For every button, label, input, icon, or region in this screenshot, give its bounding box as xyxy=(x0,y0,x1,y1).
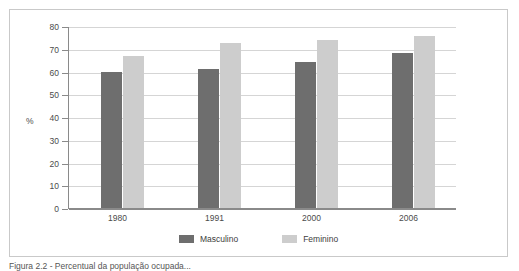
bar-group: 1980 xyxy=(69,27,166,208)
chart-figure: % 80706050403020100 1980199120002006 Mas… xyxy=(9,9,508,257)
bar-masculino-2006 xyxy=(392,53,413,208)
y-tick-label-0: 0 xyxy=(54,204,59,214)
legend-item-feminino: Feminino xyxy=(282,234,338,244)
y-tick-60 xyxy=(62,73,68,74)
y-tick-50 xyxy=(62,95,68,96)
y-tick-label-50: 50 xyxy=(50,90,59,100)
gridline-0 xyxy=(69,209,456,210)
chart-legend: MasculinoFeminino xyxy=(10,234,507,244)
legend-label-masculino: Masculino xyxy=(200,234,238,244)
y-tick-0 xyxy=(62,209,68,210)
y-tick-label-70: 70 xyxy=(50,45,59,55)
y-tick-label-80: 80 xyxy=(50,22,59,32)
bar-feminino-2000 xyxy=(317,40,338,208)
bar-masculino-2000 xyxy=(295,62,316,208)
x-tick-label-1980: 1980 xyxy=(69,213,166,223)
y-tick-label-30: 30 xyxy=(50,136,59,146)
figure-caption: Figura 2.2 - Percentual da população ocu… xyxy=(9,261,191,271)
y-tick-70 xyxy=(62,50,68,51)
y-tick-40 xyxy=(62,118,68,119)
y-tick-80 xyxy=(62,27,68,28)
bar-group: 2006 xyxy=(360,27,457,208)
bar-group: 2000 xyxy=(263,27,360,208)
bar-masculino-1980 xyxy=(101,72,122,209)
bar-masculino-1991 xyxy=(198,69,219,208)
legend-label-feminino: Feminino xyxy=(303,234,338,244)
y-tick-label-20: 20 xyxy=(50,159,59,169)
x-tick-label-2006: 2006 xyxy=(360,213,457,223)
y-tick-10 xyxy=(62,186,68,187)
y-axis-title: % xyxy=(26,116,34,126)
y-tick-label-60: 60 xyxy=(50,68,59,78)
bar-feminino-1991 xyxy=(220,43,241,208)
legend-swatch-masculino xyxy=(179,235,194,243)
bar-group: 1991 xyxy=(166,27,263,208)
bar-feminino-2006 xyxy=(414,36,435,208)
x-tick-label-1991: 1991 xyxy=(166,213,263,223)
y-tick-30 xyxy=(62,141,68,142)
y-tick-label-10: 10 xyxy=(50,181,59,191)
legend-item-masculino: Masculino xyxy=(179,234,238,244)
y-tick-label-40: 40 xyxy=(50,113,59,123)
legend-swatch-feminino xyxy=(282,235,297,243)
bar-groups: 1980199120002006 xyxy=(69,27,456,208)
bar-feminino-1980 xyxy=(123,56,144,208)
x-tick-label-2000: 2000 xyxy=(263,213,360,223)
plot-area: 80706050403020100 1980199120002006 xyxy=(68,27,456,209)
y-tick-20 xyxy=(62,164,68,165)
